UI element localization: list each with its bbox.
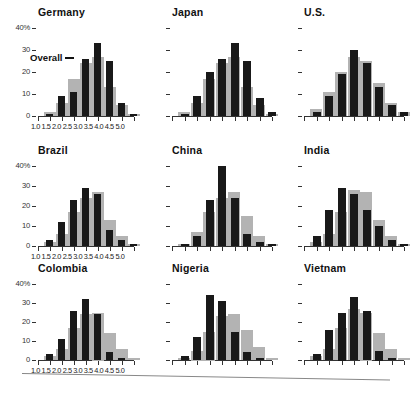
- x-axis-tick: [379, 117, 380, 121]
- y-axis-tick: [298, 116, 302, 117]
- panel-title: Nigeria: [172, 262, 209, 274]
- bottom-divider-rule: [22, 372, 390, 382]
- bar-country: [58, 339, 65, 360]
- bar-country: [363, 210, 371, 246]
- y-axis-label: 20: [0, 67, 30, 76]
- bar-country: [82, 299, 89, 360]
- y-axis-tick: [166, 94, 170, 95]
- y-axis-tick: [32, 116, 36, 117]
- bar-country: [193, 236, 201, 246]
- y-axis-tick: [298, 186, 302, 187]
- y-axis-tick: [166, 226, 170, 227]
- x-axis-tick: [110, 117, 111, 121]
- x-axis-tick: [317, 247, 318, 251]
- bar-country: [400, 112, 408, 116]
- x-axis-label: 4.0: [94, 122, 103, 131]
- x-axis-tick: [210, 361, 211, 365]
- chart-panel-nigeria: Nigeria: [140, 260, 280, 360]
- bar-overall: [398, 358, 410, 360]
- y-axis-tick: [166, 116, 170, 117]
- bar-country: [46, 114, 53, 116]
- x-axis-tick: [134, 117, 135, 121]
- y-axis-tick: [32, 206, 36, 207]
- x-axis-tick: [210, 117, 211, 121]
- x-axis-label-row: 1.0 1.5 2.0 2.5 3.0 3.5 4.0 4.5 5.0: [31, 122, 124, 131]
- overall-annotation-label: Overall: [30, 52, 63, 63]
- bar-country: [243, 61, 251, 116]
- bar-overall: [128, 358, 140, 360]
- overall-annotation: Overall: [30, 52, 74, 63]
- bar-country: [256, 358, 264, 360]
- bar-country: [375, 351, 383, 361]
- bar-country: [118, 240, 125, 246]
- y-axis-label: 0: [0, 355, 30, 364]
- bar-country: [206, 295, 214, 360]
- x-axis-tick: [367, 361, 368, 365]
- bar-country: [268, 244, 276, 246]
- y-axis-tick: [32, 226, 36, 227]
- x-axis-tick: [304, 247, 305, 251]
- x-axis-tick: [367, 247, 368, 251]
- bar-country: [130, 114, 137, 116]
- x-axis-label: 5.0: [115, 122, 124, 131]
- y-axis-label: 10: [0, 221, 30, 230]
- x-axis-label: 2.0: [52, 122, 61, 131]
- x-axis-tick: [122, 361, 123, 365]
- x-axis-tick: [272, 117, 273, 121]
- x-axis-tick: [404, 117, 405, 121]
- x-axis-tick: [197, 247, 198, 251]
- chart-panel-us: U.S.: [280, 0, 412, 140]
- y-axis-label: 40%: [0, 161, 30, 170]
- y-axis-label: 30: [0, 181, 30, 190]
- x-axis-tick: [342, 247, 343, 251]
- y-axis-tick: [32, 284, 36, 285]
- x-axis-tick: [122, 247, 123, 251]
- x-axis-tick: [172, 247, 173, 251]
- y-axis-label: 0: [0, 241, 30, 250]
- y-axis-tick: [298, 284, 302, 285]
- x-axis-tick: [185, 361, 186, 365]
- x-axis-tick: [62, 361, 63, 365]
- bar-country: [350, 50, 358, 116]
- x-axis-tick: [50, 361, 51, 365]
- x-axis-tick: [197, 361, 198, 365]
- bar-country: [268, 112, 276, 116]
- x-axis-tick: [50, 247, 51, 251]
- x-axis-tick: [172, 361, 173, 365]
- bar-country: [106, 352, 113, 360]
- x-axis-tick: [342, 117, 343, 121]
- x-axis-tick: [329, 361, 330, 365]
- x-axis-tick: [197, 117, 198, 121]
- x-axis-tick: [172, 117, 173, 121]
- x-axis-tick: [235, 361, 236, 365]
- x-axis-tick: [247, 247, 248, 251]
- bar-country: [388, 358, 396, 360]
- bar-country: [338, 74, 346, 116]
- y-axis-label: 40%: [0, 23, 30, 32]
- x-axis-tick: [185, 117, 186, 121]
- y-axis-tick: [32, 166, 36, 167]
- bar-country: [313, 236, 321, 246]
- x-axis-tick: [392, 361, 393, 365]
- overall-leader-line: [65, 57, 74, 59]
- bar-country: [206, 72, 214, 116]
- y-axis-tick: [166, 322, 170, 323]
- y-axis-label: 40%: [0, 279, 30, 288]
- x-axis-tick: [329, 247, 330, 251]
- y-axis-tick: [166, 246, 170, 247]
- x-axis-tick: [304, 117, 305, 121]
- bar-country: [58, 222, 65, 246]
- bar-country: [94, 314, 101, 360]
- y-axis-label: 10: [0, 89, 30, 98]
- x-axis-tick: [304, 361, 305, 365]
- bar-country: [70, 311, 77, 360]
- chart-panel-japan: Japan: [140, 0, 280, 140]
- y-axis-tick: [32, 303, 36, 304]
- x-axis-tick: [74, 361, 75, 365]
- bar-country: [218, 301, 226, 360]
- y-axis-tick: [166, 166, 170, 167]
- chart-panel-china: China: [140, 140, 280, 260]
- bar-country: [350, 194, 358, 246]
- small-multiples-chart-grid: Germany010203040%1.0 1.5 2.0 2.5 3.0 3.5…: [0, 0, 412, 360]
- panel-title: Vietnam: [304, 262, 346, 274]
